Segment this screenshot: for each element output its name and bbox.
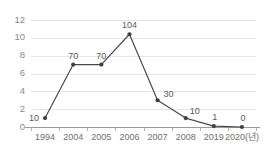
- data-point-label: 70: [96, 51, 106, 61]
- data-point-marker: [71, 62, 75, 66]
- y-tick-label: 10: [14, 31, 25, 42]
- y-tick-label: 8: [20, 49, 25, 60]
- y-tick-label: 4: [20, 85, 25, 96]
- chart-canvas: 024681012 107070104301010 19942004200520…: [0, 0, 265, 149]
- x-axis-tickmarks: [32, 128, 257, 131]
- line-chart: 024681012 107070104301010 19942004200520…: [0, 0, 265, 149]
- y-tick-label: 6: [20, 67, 25, 78]
- x-tick-label: 2006: [119, 132, 139, 142]
- y-tick-label: 12: [14, 14, 25, 25]
- data-point-labels: 107070104301010: [29, 20, 245, 123]
- x-tick-label: 2004: [63, 132, 83, 142]
- data-point-label: 10: [190, 106, 200, 116]
- data-point-label: 104: [122, 20, 137, 30]
- y-axis-tick-labels: 024681012: [14, 14, 25, 132]
- data-point-label: 70: [68, 51, 78, 61]
- x-tick-label: 2019: [204, 132, 224, 142]
- data-point-marker: [212, 124, 216, 128]
- x-axis-tick-labels: 19942004200520062007200820192020(년): [35, 132, 259, 142]
- data-point-label: 1: [212, 112, 217, 122]
- x-tick-label: 2008: [176, 132, 196, 142]
- y-tick-label: 0: [20, 121, 25, 132]
- data-point-label: 10: [29, 113, 39, 123]
- data-point-marker: [155, 98, 159, 102]
- x-tick-label: 2005: [91, 132, 111, 142]
- data-point-marker: [184, 116, 188, 120]
- y-tick-label: 2: [20, 103, 25, 114]
- gridlines-group: [31, 21, 256, 110]
- data-point-label: 30: [164, 89, 174, 99]
- data-point-label: 0: [240, 113, 245, 123]
- x-tick-label: 2020(년): [225, 132, 259, 142]
- data-point-marker: [43, 116, 47, 120]
- data-point-marker: [99, 62, 103, 66]
- data-point-marker: [127, 32, 131, 36]
- data-point-marker: [240, 125, 244, 129]
- x-tick-label: 2007: [148, 132, 168, 142]
- x-tick-label: 1994: [35, 132, 55, 142]
